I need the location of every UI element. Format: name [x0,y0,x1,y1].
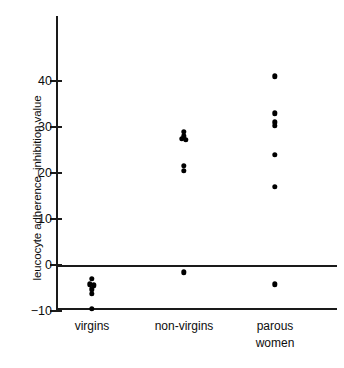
scatter-chart: leucocyte adherence–inhibition value −10… [0,0,344,368]
y-axis-tick-label: −10 [12,305,52,318]
group-label-line: virgins [75,319,110,333]
group-label-non-virgins: non-virgins [155,318,214,335]
y-axis-tick-label: 30 [12,121,52,134]
data-point [181,168,186,173]
group-label-parous-women: parouswomen [256,318,295,353]
data-point [272,152,277,157]
y-axis-tick-label: 10 [12,213,52,226]
data-point [89,306,94,311]
y-axis-tick-label: 0 [12,259,52,272]
data-point [272,282,277,287]
data-point [181,270,186,275]
group-label-line: non-virgins [155,319,214,333]
data-point [183,137,188,142]
group-label-line: women [256,335,295,352]
group-label-line: parous [257,319,294,333]
group-label-virgins: virgins [75,318,110,335]
data-point [272,110,277,115]
y-axis-title: leucocyte adherence–inhibition value [31,63,43,313]
x-axis-line [56,308,337,310]
y-axis-tick-label: 40 [12,75,52,88]
zero-reference-line [56,265,337,267]
data-point [272,74,277,79]
data-point [89,291,94,296]
data-point [272,184,277,189]
data-point [272,123,277,128]
y-axis-tick-label: 20 [12,167,52,180]
